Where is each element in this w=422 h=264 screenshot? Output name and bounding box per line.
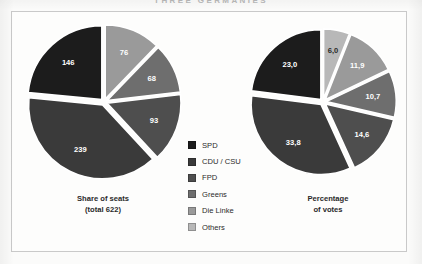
legend-item-others: Others bbox=[188, 219, 241, 235]
legend-item-greens: Greens bbox=[188, 186, 241, 202]
legend-item-label: SPD bbox=[202, 141, 218, 150]
pie-slice-label: 14,6 bbox=[354, 130, 369, 139]
pie-slice-label: 76 bbox=[120, 48, 128, 57]
legend-item-label: Greens bbox=[202, 190, 227, 199]
pie-slice-label: 239 bbox=[74, 145, 87, 154]
legend-swatch-icon bbox=[188, 207, 196, 215]
legend-item-label: CDU / CSU bbox=[202, 157, 241, 166]
caption-right: Percentage of votes bbox=[268, 193, 388, 215]
chart-legend: SPDCDU / CSUFPDGreensDie LinkeOthers bbox=[188, 137, 241, 235]
scanned-page: THREE GERMANIES 766893239146 Share of se… bbox=[0, 0, 422, 264]
legend-item-label: FPD bbox=[202, 173, 217, 182]
running-head: THREE GERMANIES bbox=[0, 0, 422, 4]
caption-right-line2: of votes bbox=[268, 204, 388, 215]
legend-swatch-icon bbox=[188, 158, 196, 166]
pie-slice-label: 68 bbox=[147, 74, 155, 83]
pie-slice-label: 23,0 bbox=[282, 60, 297, 69]
legend-item-die-linke: Die Linke bbox=[188, 203, 241, 219]
pie-slice-label: 93 bbox=[150, 116, 158, 125]
caption-right-line1: Percentage bbox=[268, 193, 388, 204]
legend-swatch-icon bbox=[188, 141, 196, 149]
legend-item-fpd: FPD bbox=[188, 170, 241, 186]
pie-slice-label: 146 bbox=[62, 58, 75, 67]
caption-left: Share of seats (total 622) bbox=[38, 193, 168, 215]
caption-left-line1: Share of seats bbox=[38, 193, 168, 204]
legend-item-cdu-csu: CDU / CSU bbox=[188, 153, 241, 169]
pie-seats-svg: 766893239146 bbox=[18, 14, 188, 189]
pie-slice-label: 10,7 bbox=[366, 92, 381, 101]
caption-left-line2: (total 622) bbox=[38, 204, 168, 215]
legend-item-label: Die Linke bbox=[202, 206, 234, 215]
pie-chart-seats: 766893239146 bbox=[18, 14, 188, 189]
legend-item-spd: SPD bbox=[188, 137, 241, 153]
legend-item-label: Others bbox=[202, 223, 225, 232]
pie-slice-label: 33,8 bbox=[286, 138, 301, 147]
legend-swatch-icon bbox=[188, 190, 196, 198]
pie-slice-label: 11,9 bbox=[350, 61, 364, 70]
pie-chart-votes: 6,011,910,714,633,823,0 bbox=[245, 14, 405, 189]
legend-swatch-icon bbox=[188, 223, 196, 231]
pie-votes-svg: 6,011,910,714,633,823,0 bbox=[245, 14, 405, 189]
pie-slice-label: 6,0 bbox=[328, 46, 339, 55]
legend-swatch-icon bbox=[188, 174, 196, 182]
